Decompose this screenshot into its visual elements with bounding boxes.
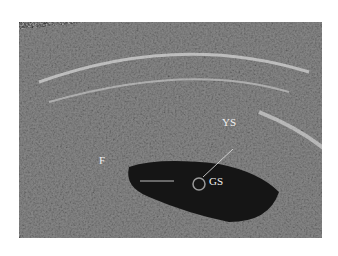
ultrasound-image: YS F GS xyxy=(19,22,322,238)
label-fetal-pole: F xyxy=(99,155,105,166)
label-gestational-sac: GS xyxy=(209,176,223,187)
label-yolk-sac: YS xyxy=(222,117,236,128)
ultrasound-fan xyxy=(19,22,322,238)
